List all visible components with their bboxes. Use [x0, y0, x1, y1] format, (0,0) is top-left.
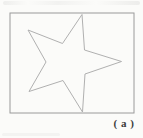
figure-container: ( a ) — [0, 0, 143, 138]
star-outline — [28, 15, 122, 113]
figure-label: ( a ) — [107, 117, 141, 130]
figure-frame — [10, 13, 134, 113]
